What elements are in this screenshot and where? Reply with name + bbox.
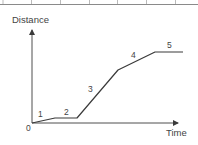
x-axis-label: Time bbox=[166, 127, 187, 138]
segment-label-1: 1 bbox=[38, 109, 43, 119]
distance-time-line bbox=[32, 52, 183, 123]
y-axis-label: Distance bbox=[12, 14, 49, 25]
segment-label-5: 5 bbox=[167, 40, 172, 50]
top-table-border bbox=[0, 0, 198, 5]
segment-label-2: 2 bbox=[64, 107, 69, 117]
segment-label-3: 3 bbox=[88, 84, 93, 94]
segment-label-4: 4 bbox=[131, 50, 136, 60]
distance-time-graph: Distance Time 0 1 2 3 4 5 bbox=[0, 0, 198, 145]
origin-label: 0 bbox=[26, 123, 31, 133]
